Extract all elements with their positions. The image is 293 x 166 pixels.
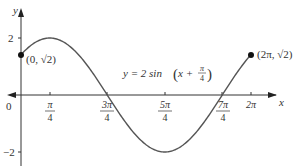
point-start <box>18 52 24 58</box>
equation-frac-num: π <box>200 64 205 73</box>
x-tick-label-5pi-4: 5π 4 <box>158 99 172 123</box>
y-axis-arrow-icon <box>18 8 24 17</box>
x-tick-label-3pi-4: 3π 4 <box>100 99 114 123</box>
svg-text:4: 4 <box>221 112 226 123</box>
svg-text:5π: 5π <box>160 99 171 110</box>
point-end <box>248 52 254 58</box>
svg-text:3π: 3π <box>101 99 113 110</box>
point-label-start: (0, √2) <box>26 53 56 66</box>
equation-label: y = 2 sin ( x + π 4 ) <box>122 64 212 83</box>
x-axis-label: x <box>278 96 284 108</box>
equation-paren-close: ) <box>207 66 212 83</box>
y-axis-label: y <box>12 4 18 16</box>
function-graph: y x 0 2 −2 π 4 3π 4 5π 4 7π 4 2π (0, √2)… <box>0 0 293 166</box>
x-tick-label-7pi-4: 7π 4 <box>216 99 230 123</box>
x-axis-arrow-right-icon <box>268 92 277 98</box>
svg-text:7π: 7π <box>218 99 229 110</box>
svg-text:4: 4 <box>48 112 53 123</box>
x-axis-arrow-left-icon <box>7 92 16 98</box>
y-tick-label-neg2: −2 <box>3 146 15 158</box>
point-label-end: (2π, √2) <box>257 48 293 61</box>
equation-frac-den: 4 <box>200 74 204 83</box>
origin-label: 0 <box>6 100 12 112</box>
svg-text:π: π <box>47 99 53 110</box>
x-tick-label-2pi: 2π <box>246 99 257 110</box>
equation-prefix: y = 2 sin <box>122 67 162 79</box>
equation-arg: x + <box>177 67 193 79</box>
y-tick-label-2: 2 <box>8 32 14 44</box>
svg-text:4: 4 <box>105 112 110 123</box>
x-tick-label-pi-4: π 4 <box>45 99 55 123</box>
svg-text:4: 4 <box>163 112 168 123</box>
